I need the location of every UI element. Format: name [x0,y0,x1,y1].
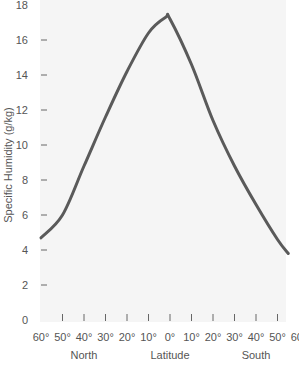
humidity-chart: 024681012141618 60°50°40°30°20°10°0°10°2… [0,0,299,371]
x-tick-label: 20° [119,331,136,343]
y-tick-label: 8 [22,174,28,186]
x-group-label-north: North [71,349,98,361]
x-tick-label: 60° [33,331,50,343]
x-tick-label: 20° [205,331,222,343]
x-tick-label: 10° [183,331,200,343]
x-axis-title: Latitude [150,349,189,361]
plot-area [40,0,286,322]
y-tick-label: 12 [16,104,28,116]
x-tick-label: 30° [97,331,114,343]
x-tick-label: 10° [140,331,157,343]
y-axis-title: Specific Humidity (g/kg) [2,107,14,223]
x-tick-label: 50° [269,331,286,343]
y-tick-label: 2 [22,279,28,291]
y-tick-label: 16 [16,34,28,46]
y-tick-label: 10 [16,139,28,151]
x-tick-label: 60° [291,331,299,343]
y-tick-label: 4 [22,244,28,256]
y-tick-label: 6 [22,209,28,221]
x-tick-label: 30° [226,331,243,343]
y-tick-label: 0 [22,314,28,326]
x-tick-label: 40° [76,331,93,343]
x-tick-label: 50° [54,331,71,343]
y-tick-label: 14 [16,69,28,81]
x-group-label-south: South [242,349,271,361]
x-tick-label: 40° [248,331,265,343]
x-tick-label: 0° [165,331,176,343]
y-tick-label: 18 [16,0,28,11]
